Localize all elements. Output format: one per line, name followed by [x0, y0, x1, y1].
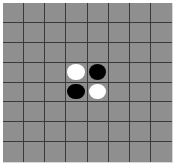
board-cell-r0c6[interactable]	[130, 3, 151, 23]
board-cell-r2c7[interactable]	[151, 43, 172, 63]
white-disc-icon	[67, 64, 84, 80]
board-cell-r3c6[interactable]	[130, 63, 151, 83]
board-cell-r2c0[interactable]	[3, 43, 24, 63]
board-cell-r3c1[interactable]	[24, 63, 45, 83]
board-cell-r2c6[interactable]	[130, 43, 151, 63]
board-cell-r3c5[interactable]	[109, 63, 130, 83]
white-disc-icon	[89, 84, 106, 100]
board-cell-r6c6[interactable]	[130, 122, 151, 142]
black-disc-icon	[89, 64, 106, 80]
board-cell-r3c2[interactable]	[45, 63, 66, 83]
board-cell-r5c2[interactable]	[45, 102, 66, 122]
board-cell-r5c0[interactable]	[3, 102, 24, 122]
board-cell-r5c3[interactable]	[66, 102, 87, 122]
board-cell-r6c5[interactable]	[109, 122, 130, 142]
board-cell-r4c1[interactable]	[24, 83, 45, 103]
board-cell-r2c4[interactable]	[88, 43, 109, 63]
board-cell-r0c2[interactable]	[45, 3, 66, 23]
board-cell-r4c3[interactable]	[66, 83, 87, 103]
board-cell-r1c6[interactable]	[130, 23, 151, 43]
board-cell-r6c7[interactable]	[151, 122, 172, 142]
board-cell-r3c0[interactable]	[3, 63, 24, 83]
board-cell-r1c7[interactable]	[151, 23, 172, 43]
board-cell-r7c6[interactable]	[130, 142, 151, 162]
board-cell-r7c1[interactable]	[24, 142, 45, 162]
board-cell-r0c1[interactable]	[24, 3, 45, 23]
board-cell-r0c0[interactable]	[3, 3, 24, 23]
board-cell-r5c4[interactable]	[88, 102, 109, 122]
board-cell-r3c3[interactable]	[66, 63, 87, 83]
board-cell-r4c6[interactable]	[130, 83, 151, 103]
board-cell-r4c0[interactable]	[3, 83, 24, 103]
board-cell-r6c3[interactable]	[66, 122, 87, 142]
board-cell-r5c1[interactable]	[24, 102, 45, 122]
board-cell-r5c5[interactable]	[109, 102, 130, 122]
board-cell-r2c5[interactable]	[109, 43, 130, 63]
board-cell-r2c2[interactable]	[45, 43, 66, 63]
board-cell-r3c4[interactable]	[88, 63, 109, 83]
board-cell-r4c4[interactable]	[88, 83, 109, 103]
board-cell-r4c2[interactable]	[45, 83, 66, 103]
board-cell-r4c7[interactable]	[151, 83, 172, 103]
board-cell-r0c3[interactable]	[66, 3, 87, 23]
black-disc-icon	[67, 84, 84, 100]
board-cell-r7c5[interactable]	[109, 142, 130, 162]
board-cell-r1c0[interactable]	[3, 23, 24, 43]
board-cell-r1c4[interactable]	[88, 23, 109, 43]
board-cell-r7c0[interactable]	[3, 142, 24, 162]
board-cell-r0c5[interactable]	[109, 3, 130, 23]
board-cell-r4c5[interactable]	[109, 83, 130, 103]
board-cell-r6c4[interactable]	[88, 122, 109, 142]
board-cell-r2c1[interactable]	[24, 43, 45, 63]
board-cell-r7c3[interactable]	[66, 142, 87, 162]
board-cell-r3c7[interactable]	[151, 63, 172, 83]
board-cell-r5c7[interactable]	[151, 102, 172, 122]
board-cell-r7c2[interactable]	[45, 142, 66, 162]
board-cell-r6c0[interactable]	[3, 122, 24, 142]
board-cell-r0c4[interactable]	[88, 3, 109, 23]
board-cell-r7c7[interactable]	[151, 142, 172, 162]
board-cell-r0c7[interactable]	[151, 3, 172, 23]
board-cell-r1c1[interactable]	[24, 23, 45, 43]
board-cell-r2c3[interactable]	[66, 43, 87, 63]
board-cell-r1c2[interactable]	[45, 23, 66, 43]
board-cell-r1c3[interactable]	[66, 23, 87, 43]
board-cell-r5c6[interactable]	[130, 102, 151, 122]
board-cell-r7c4[interactable]	[88, 142, 109, 162]
board-cell-r6c2[interactable]	[45, 122, 66, 142]
board-cell-r1c5[interactable]	[109, 23, 130, 43]
game-board	[3, 3, 173, 163]
board-cell-r6c1[interactable]	[24, 122, 45, 142]
